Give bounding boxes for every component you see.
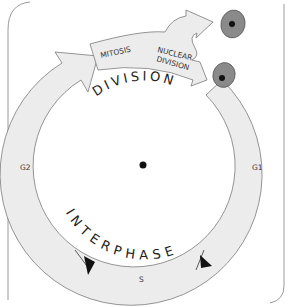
daughter-cell-bottom	[210, 60, 238, 90]
cell-cycle-diagram: MITOSIS NUCLEAR DIVISION DIVISION INTERP…	[0, 0, 291, 307]
interphase-ring	[0, 52, 262, 305]
center-dot	[140, 162, 147, 169]
division-phase-label: DIVISION	[89, 68, 178, 99]
g2-label: G2	[20, 163, 31, 172]
g1-label: G1	[252, 163, 263, 172]
daughter-cell-top	[218, 8, 247, 40]
s-label: S	[139, 275, 144, 284]
